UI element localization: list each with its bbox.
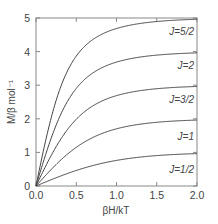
x-tick-label: 1.5: [149, 189, 164, 201]
brillouin-chart: 0.00.51.01.52.0012345 J=5/2J=2J=3/2J=1J=…: [0, 0, 218, 224]
series-label: J=1/2: [168, 164, 194, 175]
x-tick-label: 0.5: [69, 189, 84, 201]
x-tick-label: 2.0: [190, 189, 205, 201]
x-tick-label: 1.0: [109, 189, 124, 201]
y-tick-label: 5: [24, 12, 30, 24]
y-tick-label: 0: [24, 180, 30, 192]
series-label: J=2: [177, 60, 195, 71]
x-tick-label: 0.0: [29, 189, 44, 201]
x-axis-title: βH/kT: [103, 205, 130, 216]
series-label: J=5/2: [168, 26, 194, 37]
y-tick-label: 1: [24, 146, 30, 158]
y-tick-label: 3: [24, 79, 30, 91]
y-tick-label: 2: [24, 113, 30, 125]
y-axis-title: M/β mol⁻¹: [6, 79, 17, 124]
series-label: J=3/2: [168, 94, 194, 105]
series-label: J=1: [177, 131, 194, 142]
series-labels: J=5/2J=2J=3/2J=1J=1/2: [168, 26, 194, 175]
y-tick-label: 4: [24, 46, 30, 58]
